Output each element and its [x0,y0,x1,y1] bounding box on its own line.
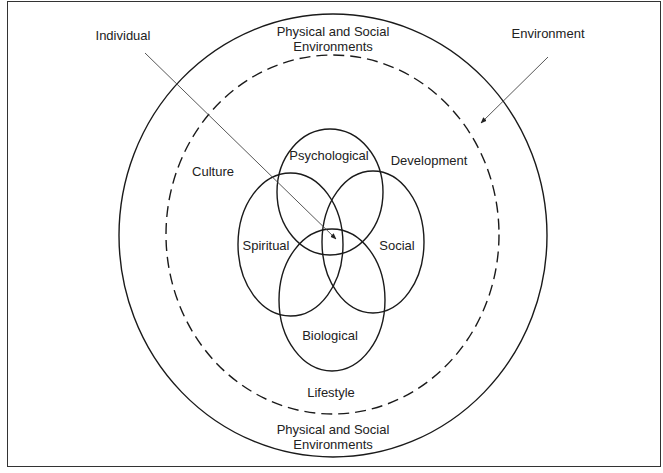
label-development: Development [391,153,468,168]
label-bottom-physical-social: Physical and Social Environments [277,422,390,452]
label-top-physical-social: Physical and Social Environments [277,24,390,54]
label-lifestyle: Lifestyle [307,385,355,400]
diagram-canvas [0,0,663,473]
label-spiritual: Spiritual [243,238,290,253]
label-psychological: Psychological [289,148,369,163]
label-bottom-line2: Environments [277,437,390,452]
label-bottom-line1: Physical and Social [277,422,390,437]
inner-dashed-circle [166,55,499,414]
label-top-line2: Environments [277,39,390,54]
label-social: Social [379,238,414,253]
label-individual: Individual [96,28,151,43]
environment-arrow [481,57,548,123]
label-top-line1: Physical and Social [277,24,390,39]
individual-arrow [145,53,336,239]
label-culture: Culture [192,164,234,179]
label-environment: Environment [512,26,585,41]
label-biological: Biological [302,328,358,343]
biological-ellipse [279,229,385,371]
